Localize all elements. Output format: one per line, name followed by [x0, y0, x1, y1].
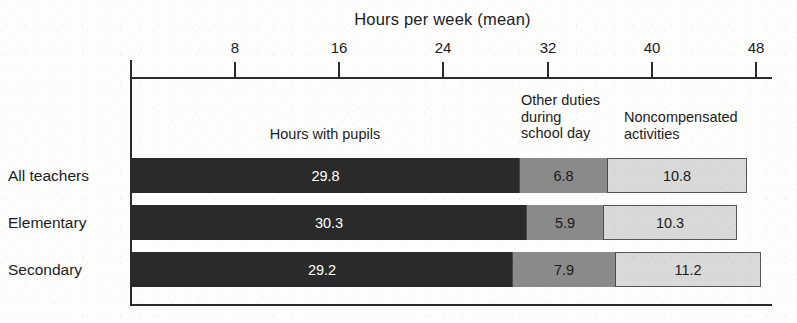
axis-line: [130, 77, 772, 79]
bar-segment-noncompensated: 11.2: [615, 252, 761, 287]
axis-tick-label-48: 48: [748, 39, 765, 56]
axis-tick-16: [338, 62, 340, 78]
axis-tick-48: [755, 62, 757, 78]
axis-tick-24: [442, 62, 444, 78]
bar-segment-other-duties: 7.9: [512, 252, 615, 287]
bar-segment-noncompensated: 10.8: [607, 158, 747, 193]
bar-value-label: 7.9: [554, 262, 574, 278]
axis-tick-label-8: 8: [231, 39, 239, 56]
axis-tick-32: [547, 62, 549, 78]
axis-tick-8: [234, 62, 236, 78]
bar-value-label: 10.8: [663, 168, 691, 184]
category-label-elementary: Elementary: [8, 214, 122, 232]
legend-label-noncompensated-line2: activities: [624, 126, 738, 143]
legend-label-noncompensated: Noncompensated activities: [624, 109, 738, 142]
legend-label-other-duties-line3: school day: [521, 125, 600, 142]
axis-tick-label-24: 24: [435, 39, 452, 56]
legend-label-other-duties-line1: Other duties: [521, 92, 600, 109]
axis-tick-label-16: 16: [331, 39, 348, 56]
bar-value-label: 30.3: [315, 215, 343, 231]
axis-tick-label-40: 40: [644, 39, 661, 56]
category-label-all-teachers: All teachers: [8, 167, 122, 185]
bar-value-label: 6.8: [553, 168, 573, 184]
bar-segment-hours-with-pupils: 29.2: [132, 252, 512, 287]
axis-tick-origin: [130, 60, 132, 78]
legend-label-hours-with-pupils: Hours with pupils: [270, 126, 380, 143]
bar-value-label: 5.9: [555, 215, 575, 231]
bar-value-label: 29.8: [311, 168, 339, 184]
bar-segment-hours-with-pupils: 30.3: [132, 205, 526, 240]
bar-segment-hours-with-pupils: 29.8: [132, 158, 519, 193]
axis-tick-40: [651, 62, 653, 78]
bar-segment-other-duties: 6.8: [519, 158, 607, 193]
category-label-secondary: Secondary: [8, 261, 122, 279]
bar-value-label: 10.3: [656, 215, 684, 231]
legend-label-other-duties: Other duties during school day: [521, 92, 600, 142]
legend-label-other-duties-line2: during: [521, 109, 600, 126]
plot-frame-bottom: [130, 304, 772, 306]
bar-segment-other-duties: 5.9: [526, 205, 603, 240]
chart-figure: Hours per week (mean) 8 16 24 32 40 48 H…: [0, 0, 797, 323]
bar-value-label: 29.2: [308, 262, 336, 278]
axis-tick-label-32: 32: [540, 39, 557, 56]
bar-segment-noncompensated: 10.3: [603, 205, 737, 240]
bar-value-label: 11.2: [674, 262, 701, 278]
legend-label-noncompensated-line1: Noncompensated: [624, 109, 738, 126]
